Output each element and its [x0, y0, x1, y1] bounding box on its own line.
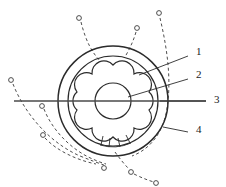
callout-label-3: 3: [214, 93, 220, 105]
figure-canvas: 1 2 3 4: [0, 0, 226, 187]
trajectory-marker: [157, 11, 162, 16]
trajectory-marker: [102, 166, 107, 171]
trajectory-curves: [13, 18, 169, 182]
trajectory-marker: [40, 104, 45, 109]
trajectory-markers: [9, 11, 162, 186]
trajectory-path-bottom-c: [134, 174, 154, 182]
trajectory-path-top-right: [132, 18, 169, 156]
leader-line-1: [139, 56, 188, 75]
trajectory-marker: [41, 133, 46, 138]
callout-label-4: 4: [196, 123, 202, 135]
trajectory-path-top-mid: [125, 32, 136, 57]
leader-line-4: [163, 127, 188, 132]
trajectory-marker: [129, 170, 134, 175]
trajectory-marker: [135, 26, 140, 31]
trajectory-marker: [77, 16, 82, 21]
callout-label-1: 1: [196, 45, 202, 57]
trajectory-marker: [9, 78, 14, 83]
technical-diagram: 1 2 3 4: [0, 0, 226, 187]
trajectory-marker: [154, 181, 159, 186]
callout-label-2: 2: [196, 68, 202, 80]
